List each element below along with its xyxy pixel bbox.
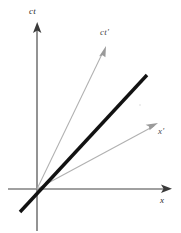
ct-axis-label: ct: [29, 7, 36, 16]
x-axis: [8, 185, 172, 193]
x-prime-axis: [37, 123, 158, 189]
ct-prime-axis: [37, 46, 106, 189]
ct-prime-axis-label: ct': [100, 28, 109, 37]
minkowski-diagram-figure: ct ct' x' x: [0, 0, 181, 233]
x-prime-axis-label: x': [158, 127, 164, 136]
worldline: [20, 75, 147, 212]
ct-prime-axis-line: [37, 52, 103, 189]
ct-axis: [33, 22, 41, 231]
x-prime-axis-line: [37, 126, 154, 189]
x-axis-label: x: [160, 196, 164, 205]
diagram-canvas: [0, 0, 181, 233]
scan-speck: [139, 104, 140, 105]
ct-prime-arrowhead-icon: [99, 46, 106, 57]
